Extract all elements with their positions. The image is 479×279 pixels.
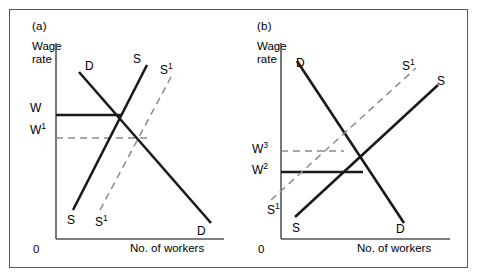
figure-canvas: (a) Wage rate 0 No. of workers W W1 D S … xyxy=(0,0,479,279)
figure-border: (a) Wage rate 0 No. of workers W W1 D S … xyxy=(9,9,468,268)
panel-a-plot xyxy=(10,10,239,269)
panel-a-supply-shift-curve xyxy=(100,77,171,210)
panel-b-supply-curve xyxy=(295,85,438,217)
panel-b: (b) Wage rate 0 No. of workers W3 W2 D S… xyxy=(239,10,468,269)
panel-a: (a) Wage rate 0 No. of workers W W1 D S … xyxy=(10,10,239,269)
panel-a-demand-curve xyxy=(79,72,211,223)
panel-b-plot xyxy=(239,10,468,269)
panel-b-supply-shift-curve xyxy=(271,68,416,200)
